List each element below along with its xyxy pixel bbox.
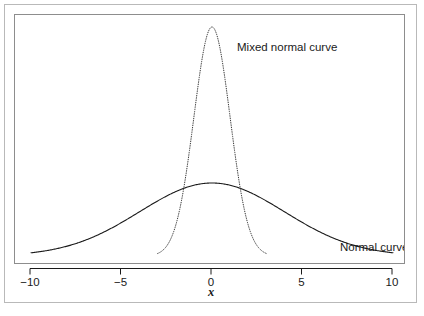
x-axis-tick-label: −10 [20,277,40,289]
figure-container: Mixed normal curve Normal curve −10−5051… [0,0,424,316]
x-axis-tick-label: 10 [386,277,399,289]
x-axis-title: x [208,286,214,299]
x-axis-tick-label: 5 [298,277,304,289]
x-axis-svg [0,0,424,316]
x-axis-tick-marks [30,269,392,275]
x-axis-tick-label: −5 [114,277,127,289]
